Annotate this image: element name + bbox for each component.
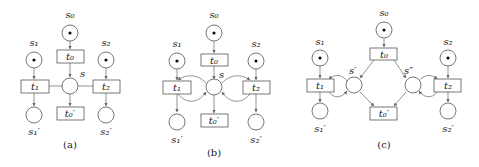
place-s1-prime bbox=[312, 103, 328, 119]
label-s0: s₀ bbox=[209, 9, 218, 20]
label-s1: s₁ bbox=[315, 36, 324, 47]
label-t1: t₁ bbox=[31, 81, 39, 92]
place-s2-prime bbox=[98, 107, 114, 123]
label-t0-prime: t₀′ bbox=[379, 108, 390, 119]
place-s bbox=[62, 78, 78, 94]
label-s: s bbox=[219, 69, 224, 80]
caption-a: (a) bbox=[63, 139, 77, 150]
label-s2: s₂ bbox=[251, 38, 260, 49]
label-s0: s₀ bbox=[379, 7, 388, 18]
place-s-double-prime bbox=[405, 77, 421, 93]
label-s-double-prime: s″ bbox=[404, 65, 413, 76]
petri-net-figure: s₀ s₁ s₂ s s₁′ s₂′ t₀ t₁ t₂ t₀′ (a) bbox=[0, 0, 479, 167]
label-s1-prime: s₁′ bbox=[171, 134, 183, 145]
place-s-prime bbox=[346, 77, 362, 93]
token-icon bbox=[446, 56, 449, 59]
label-s2-prime: s₂′ bbox=[250, 134, 262, 145]
token-icon bbox=[254, 59, 257, 62]
label-t0-prime: t₀′ bbox=[65, 108, 76, 119]
label-s-prime: s′ bbox=[349, 65, 357, 76]
token-icon bbox=[32, 58, 35, 61]
token-icon bbox=[382, 28, 385, 31]
panel-a: s₀ s₁ s₂ s s₁′ s₂′ t₀ t₁ t₂ t₀′ (a) bbox=[21, 9, 120, 150]
label-s1-prime: s₁′ bbox=[28, 126, 40, 137]
label-s2: s₂ bbox=[101, 37, 110, 48]
place-s2-prime bbox=[248, 114, 264, 130]
label-s2: s₂ bbox=[443, 36, 452, 47]
label-t2: t₂ bbox=[102, 81, 110, 92]
label-s2-prime: s₂′ bbox=[442, 123, 454, 134]
token-icon bbox=[318, 56, 321, 59]
label-t0: t₀ bbox=[66, 51, 74, 62]
label-t2: t₂ bbox=[252, 82, 260, 93]
panel-c: s₀ s₁ s₂ s′ s″ s₁′ s₂′ t₀ t₁ t₂ t₀′ (c) bbox=[307, 7, 461, 150]
caption-b: (b) bbox=[207, 147, 221, 158]
token-icon bbox=[212, 31, 215, 34]
token-icon bbox=[104, 58, 107, 61]
panel-b: s₀ s₁ s₂ s s₁′ s₂′ t₀ t₁ t₂ t₀′ (b) bbox=[163, 9, 270, 158]
label-t1: t₁ bbox=[316, 80, 324, 91]
caption-c: (c) bbox=[377, 139, 391, 150]
label-t0: t₀ bbox=[210, 55, 218, 66]
label-s1: s₁ bbox=[172, 38, 181, 49]
label-s2-prime: s₂′ bbox=[100, 126, 112, 137]
label-t2: t₂ bbox=[444, 80, 452, 91]
place-s bbox=[206, 79, 222, 95]
label-t0-prime: t₀′ bbox=[209, 115, 220, 126]
label-t1: t₁ bbox=[173, 82, 181, 93]
place-s1-prime bbox=[169, 114, 185, 130]
place-s2-prime bbox=[440, 103, 456, 119]
label-s: s bbox=[80, 68, 85, 79]
label-t0: t₀ bbox=[380, 49, 388, 60]
label-s1-prime: s₁′ bbox=[314, 123, 326, 134]
label-s0: s₀ bbox=[65, 9, 74, 20]
token-icon bbox=[68, 31, 71, 34]
label-s1: s₁ bbox=[29, 37, 38, 48]
place-s1-prime bbox=[26, 107, 42, 123]
token-icon bbox=[175, 59, 178, 62]
